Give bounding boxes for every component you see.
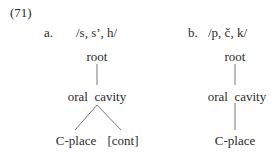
tree-branches (0, 0, 279, 153)
tree-a-left-branch (75, 105, 97, 130)
tree-a-right-branch (97, 105, 121, 130)
